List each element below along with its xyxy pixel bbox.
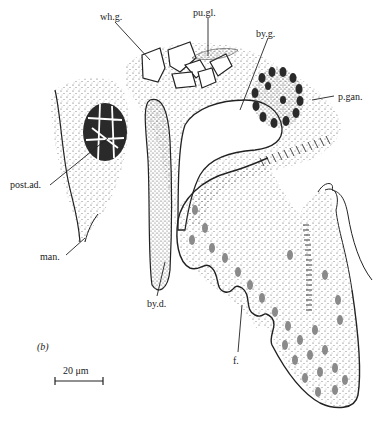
- panel-label: (b): [37, 342, 49, 352]
- label-pedal-ganglion: p.gan.: [338, 92, 362, 102]
- posterior-adductor: [83, 103, 127, 161]
- scale-bar-label: 20 μm: [63, 366, 89, 376]
- label-foot: f.: [233, 356, 239, 366]
- foot: [177, 158, 372, 408]
- label-mantle: man.: [40, 252, 60, 262]
- mantle-lobe: [51, 78, 129, 242]
- anatomical-drawing: [0, 0, 389, 430]
- label-byssus-gland: by.g.: [256, 29, 275, 39]
- scale-bar: [55, 377, 103, 385]
- label-purple-gland: pu.gl.: [193, 8, 216, 18]
- label-white-gland: wh.g.: [100, 12, 122, 22]
- label-posterior-adductor: post.ad.: [10, 180, 41, 190]
- pedal-ganglion: [252, 67, 305, 128]
- label-byssus-duct: by.d.: [147, 299, 166, 309]
- byssus-duct: [145, 99, 171, 290]
